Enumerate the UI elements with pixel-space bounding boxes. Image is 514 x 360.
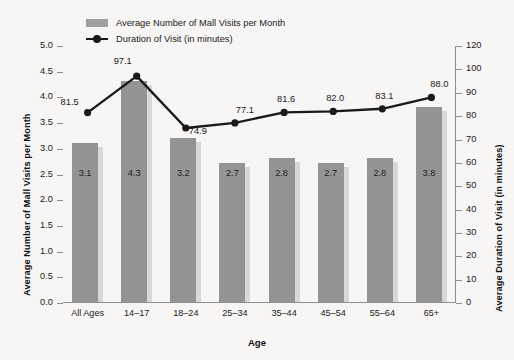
y-tick-label-right: 10 — [466, 274, 476, 284]
legend-label-line: Duration of Visit (in minutes) — [116, 34, 233, 44]
x-axis-label: 18–24 — [173, 308, 198, 318]
y-tick-label-right: 0 — [466, 297, 471, 307]
legend-line-marker-icon — [86, 35, 108, 43]
y-tick-left — [57, 303, 63, 304]
x-axis-label: 55–64 — [370, 308, 395, 318]
y-tick-label-right: 100 — [466, 63, 482, 73]
y-tick-label-left: 2.0 — [13, 194, 53, 204]
y-axis-title-right: Average Duration of Visit (in minutes) — [494, 144, 504, 312]
y-tick-label-left: 5.0 — [13, 40, 53, 50]
y-tick-label-right: 120 — [466, 40, 482, 50]
y-tick-right — [456, 46, 462, 47]
line-value-label: 74.9 — [189, 126, 207, 136]
y-tick-label-right: 80 — [466, 110, 476, 120]
line-marker[interactable] — [281, 109, 288, 116]
plot-inner: 3.14.33.22.72.82.72.83.8 — [63, 46, 455, 302]
y-tick-label-left: 3.5 — [13, 117, 53, 127]
y-tick-label-right: 40 — [466, 204, 476, 214]
y-tick-right — [456, 256, 462, 257]
y-tick-label-right: 90 — [466, 87, 476, 97]
y-tick-right — [456, 280, 462, 281]
x-axis-title: Age — [0, 337, 514, 348]
line-value-label: 83.1 — [375, 91, 393, 101]
y-tick-right — [456, 303, 462, 304]
y-tick-label-left: 0.5 — [13, 271, 53, 281]
line-value-label: 82.0 — [326, 93, 344, 103]
line-marker[interactable] — [84, 109, 91, 116]
line-value-label: 97.1 — [114, 56, 132, 66]
y-tick-right — [456, 186, 462, 187]
y-tick-label-left: 1.0 — [13, 246, 53, 256]
line-marker[interactable] — [428, 94, 435, 101]
y-tick-right — [456, 116, 462, 117]
y-tick-label-left: 2.5 — [13, 169, 53, 179]
line-path — [88, 76, 432, 128]
x-axis-label: 14–17 — [124, 308, 149, 318]
x-axis-label: All Ages — [71, 308, 104, 318]
y-tick-label-left: 3.0 — [13, 143, 53, 153]
y-tick-right — [456, 140, 462, 141]
y-tick-label-right: 60 — [466, 157, 476, 167]
y-tick-label-right: 50 — [466, 180, 476, 190]
y-tick-label-right: 70 — [466, 134, 476, 144]
y-axis-title-left: Average Number of Mall Visits per Month — [22, 113, 32, 296]
legend-item-line: Duration of Visit (in minutes) — [86, 32, 285, 46]
x-axis-label: 65+ — [424, 308, 439, 318]
y-tick-right — [456, 163, 462, 164]
line-value-label: 88.0 — [430, 79, 448, 89]
legend-swatch-icon — [86, 19, 108, 27]
plot-area: 3.14.33.22.72.82.72.83.8 — [63, 46, 456, 303]
line-marker[interactable] — [133, 73, 140, 80]
chart-legend: Average Number of Mall Visits per Month … — [86, 16, 285, 48]
y-tick-label-left: 4.5 — [13, 66, 53, 76]
y-tick-label-right: 30 — [466, 227, 476, 237]
line-value-label: 81.5 — [61, 97, 79, 107]
line-value-label: 77.1 — [236, 105, 254, 115]
x-axis-label: 25–34 — [222, 308, 247, 318]
y-tick-right — [456, 233, 462, 234]
legend-label-bars: Average Number of Mall Visits per Month — [116, 18, 285, 28]
x-axis-label: 45–54 — [321, 308, 346, 318]
chart-root: Average Number of Mall Visits per Month … — [0, 0, 514, 360]
y-tick-label-left: 1.5 — [13, 220, 53, 230]
x-axis-label: 35–44 — [271, 308, 296, 318]
line-value-label: 81.6 — [277, 94, 295, 104]
y-tick-right — [456, 210, 462, 211]
y-tick-label-right: 20 — [466, 250, 476, 260]
legend-item-bars: Average Number of Mall Visits per Month — [86, 16, 285, 30]
y-tick-label-left: 0.0 — [13, 297, 53, 307]
line-series-layer — [63, 46, 456, 303]
line-marker[interactable] — [231, 119, 238, 126]
y-tick-label-left: 4.0 — [13, 91, 53, 101]
y-tick-right — [456, 69, 462, 70]
line-marker[interactable] — [330, 108, 337, 115]
y-tick-right — [456, 93, 462, 94]
line-marker[interactable] — [379, 105, 386, 112]
